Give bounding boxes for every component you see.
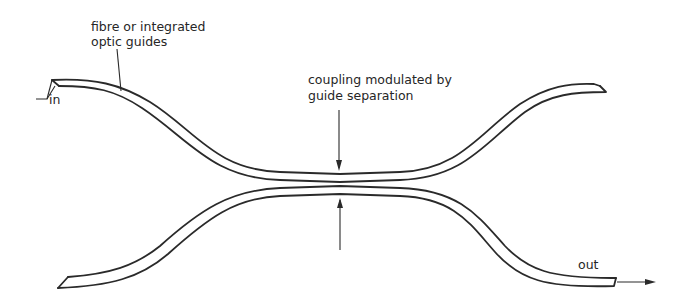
- coupling-label-line2: guide separation: [308, 89, 413, 103]
- guides-label-line1: fibre or integrated: [91, 20, 205, 34]
- coupling-label-line1: coupling modulated by: [308, 73, 452, 87]
- input-label: in: [49, 93, 60, 107]
- guides-leader-line: [117, 49, 121, 91]
- output-arrow-icon: [617, 279, 656, 285]
- lower-guide: [58, 186, 616, 288]
- guides-label-line2: optic guides: [91, 35, 167, 49]
- coupler-diagram: fibre or integrated optic guides couplin…: [0, 0, 680, 306]
- coupling-arrow-down-icon: [336, 110, 342, 171]
- output-label: out: [578, 258, 598, 272]
- coupling-arrow-up-icon: [337, 198, 343, 250]
